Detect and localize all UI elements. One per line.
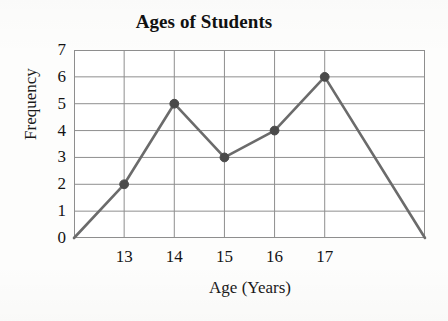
data-point-marker: [120, 180, 129, 189]
y-tick-label: 0: [40, 229, 66, 246]
x-tick-label: 16: [255, 248, 295, 265]
y-tick-label: 3: [40, 148, 66, 165]
x-tick-label: 17: [305, 248, 345, 265]
y-tick-label: 6: [40, 68, 66, 85]
data-point-marker: [320, 72, 329, 81]
y-tick-label: 5: [40, 95, 66, 112]
series-line: [74, 77, 425, 238]
data-point-marker: [170, 99, 179, 108]
x-axis-title: Age (Years): [74, 278, 426, 298]
x-tick-label: 15: [204, 248, 244, 265]
chart-title: Ages of Students: [74, 11, 334, 33]
y-tick-label: 7: [40, 41, 66, 58]
y-tick-label: 4: [40, 122, 66, 139]
x-tick-label: 14: [154, 248, 194, 265]
data-point-marker: [220, 153, 229, 162]
data-point-marker: [270, 126, 279, 135]
x-tick-label: 13: [104, 248, 144, 265]
data-series-frequency: [74, 50, 425, 238]
y-tick-label: 2: [40, 175, 66, 192]
y-tick-label: 1: [40, 202, 66, 219]
plot-area: [74, 50, 425, 238]
line-chart-figure: Ages of Students Frequency 01234567 1314…: [0, 0, 448, 321]
y-axis-title: Frequency: [21, 29, 41, 179]
